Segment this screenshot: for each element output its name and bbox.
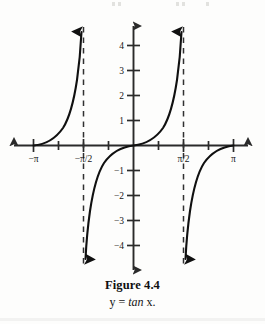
tan-branch-right [186, 146, 234, 260]
figure-caption-equation: y = tan x. [0, 295, 265, 310]
axes-group [14, 26, 248, 270]
y-tick-label-1: 1 [119, 116, 124, 126]
y-tick-label-neg-3: −3 [114, 216, 124, 226]
equation-prefix: y = [109, 295, 128, 309]
equation-suffix: x. [144, 295, 156, 309]
y-tick-label-3: 3 [119, 66, 124, 76]
figure-caption-title: Figure 4.4 [0, 278, 265, 294]
scan-edge-bottom [0, 318, 265, 321]
x-tick-label-neg-pi: −π [28, 154, 38, 164]
y-tick-label-2: 2 [119, 91, 124, 101]
equation-function-name: tan [128, 295, 143, 309]
figure-caption: Figure 4.4 y = tan x. [0, 278, 265, 310]
x-tick-label-pi-over-2: π/2 [177, 154, 189, 164]
y-tick-label-neg-1: −1 [114, 166, 124, 176]
y-tick-label-4: 4 [119, 41, 124, 51]
y-tick-label-neg-2: −2 [114, 191, 124, 201]
x-tick-label-neg-pi-over-2: −π/2 [75, 154, 93, 164]
y-tick-label-neg-4: −4 [114, 241, 124, 251]
tangent-function-plot: −π −π/2 π/2 π 4 3 2 1 −1 −2 −3 −4 [0, 0, 265, 324]
tan-branch-left [34, 32, 82, 146]
x-tick-label-pi: π [231, 154, 236, 164]
figure-container: −π −π/2 π/2 π 4 3 2 1 −1 −2 −3 −4 Figure… [0, 0, 265, 324]
